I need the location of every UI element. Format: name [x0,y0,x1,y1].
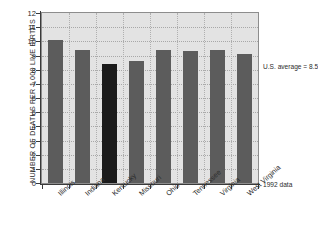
plot-area [41,12,259,184]
bar-tennessee [183,51,198,183]
y-tick-label: 1 [22,164,36,173]
gridline-vertical [96,13,97,183]
y-tick-label: 7 [22,79,36,88]
y-tick-mark [36,70,40,71]
y-tick-label: 4 [22,122,36,131]
gridline-vertical [231,13,232,183]
y-tick-mark [36,169,40,170]
y-tick-label: 9 [22,51,36,60]
gridline-vertical [123,13,124,183]
y-tick-label: 12 [22,9,36,18]
y-tick-mark [36,155,40,156]
y-tick-mark [36,27,40,28]
y-tick-mark [36,56,40,57]
y-tick-mark [36,13,40,14]
x-tick-mark [42,185,43,189]
y-tick-label: 11 [22,23,36,32]
bar-west-virginia [237,54,252,183]
y-tick-label: 8 [22,65,36,74]
y-tick-label: 10 [22,37,36,46]
y-tick-mark [36,112,40,113]
y-tick-label: 0 [22,179,36,188]
infant-mortality-bar-chart: NUMBER OF DEATHS PER 1,000 LIVE BIRTHS 0… [0,0,318,240]
bar-ohio [156,50,171,183]
y-tick-label: 2 [22,150,36,159]
y-tick-mark [36,84,40,85]
gridline-vertical [69,13,70,183]
y-tick-label: 5 [22,108,36,117]
gridline-vertical [177,13,178,183]
y-tick-mark [36,41,40,42]
gridline-vertical [150,13,151,183]
bar-indiana [75,50,90,183]
y-tick-mark [36,98,40,99]
plot-inner [42,13,258,183]
y-tick-mark [36,141,40,142]
bar-illinois [48,40,63,183]
y-tick-mark [36,126,40,127]
y-tick-label: 6 [22,94,36,103]
year-annotation: 1992 data [263,181,292,188]
us-average-annotation: U.S. average = 8.5 [263,63,318,70]
bar-kentucky [102,64,117,183]
y-axis-line [40,11,41,185]
bar-missouri [129,61,144,183]
y-tick-label: 3 [22,136,36,145]
bar-virginia [210,50,225,183]
gridline-vertical [204,13,205,183]
